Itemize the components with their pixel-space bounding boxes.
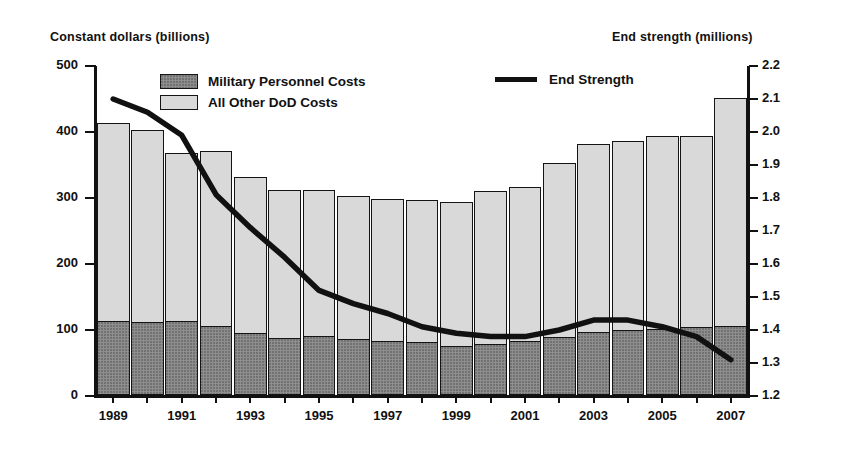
right-tick-label: 1.8 bbox=[762, 189, 780, 204]
right-tick-mark bbox=[749, 98, 758, 100]
x-tick-mark bbox=[146, 397, 148, 403]
left-tick-mark bbox=[85, 329, 94, 331]
x-tick-label: 2005 bbox=[648, 408, 677, 423]
right-tick-mark bbox=[749, 197, 758, 199]
x-tick-mark bbox=[524, 397, 526, 403]
end-strength-line bbox=[96, 66, 748, 397]
x-tick-mark bbox=[249, 397, 251, 403]
x-tick-label: 1991 bbox=[167, 408, 196, 423]
right-tick-label: 1.5 bbox=[762, 288, 780, 303]
x-tick-mark bbox=[558, 397, 560, 403]
legend-item-end-strength: End Strength bbox=[495, 72, 634, 87]
x-tick-mark bbox=[352, 397, 354, 403]
right-tick-label: 2.0 bbox=[762, 123, 780, 138]
x-tick-label: 1989 bbox=[99, 408, 128, 423]
right-tick-mark bbox=[749, 329, 758, 331]
x-tick-mark bbox=[730, 397, 732, 403]
left-tick-label: 300 bbox=[30, 189, 78, 204]
right-axis-title: End strength (millions) bbox=[612, 30, 753, 44]
right-tick-label: 2.1 bbox=[762, 90, 780, 105]
right-tick-label: 1.3 bbox=[762, 354, 780, 369]
left-tick-mark bbox=[85, 131, 94, 133]
x-tick-mark bbox=[284, 397, 286, 403]
legend-item-military: Military Personnel Costs bbox=[160, 72, 366, 91]
right-tick-mark bbox=[749, 131, 758, 133]
x-tick-mark bbox=[593, 397, 595, 403]
legend: Military Personnel Costs All Other DoD C… bbox=[160, 72, 366, 114]
right-tick-mark bbox=[749, 263, 758, 265]
left-tick-mark bbox=[85, 263, 94, 265]
x-tick-mark bbox=[181, 397, 183, 403]
left-tick-label: 400 bbox=[30, 123, 78, 138]
x-tick-mark bbox=[387, 397, 389, 403]
right-tick-mark bbox=[749, 362, 758, 364]
x-tick-mark bbox=[455, 397, 457, 403]
x-tick-mark bbox=[318, 397, 320, 403]
right-tick-mark bbox=[749, 230, 758, 232]
plot-area: 0100200300400500 1.21.31.41.51.61.71.81.… bbox=[96, 66, 748, 396]
x-tick-mark bbox=[421, 397, 423, 403]
chart-container: Constant dollars (billions) End strength… bbox=[0, 0, 849, 475]
right-tick-mark bbox=[749, 164, 758, 166]
x-tick-mark bbox=[215, 397, 217, 403]
right-tick-mark bbox=[749, 395, 758, 397]
x-tick-label: 1999 bbox=[442, 408, 471, 423]
legend-swatch-military-icon bbox=[160, 74, 198, 89]
left-tick-mark bbox=[85, 395, 94, 397]
left-tick-mark bbox=[85, 197, 94, 199]
right-tick-label: 2.2 bbox=[762, 57, 780, 72]
legend-item-other: All Other DoD Costs bbox=[160, 93, 366, 112]
x-tick-label: 1995 bbox=[305, 408, 334, 423]
x-tick-label: 2007 bbox=[716, 408, 745, 423]
left-tick-label: 0 bbox=[30, 387, 78, 402]
right-tick-mark bbox=[749, 65, 758, 67]
x-tick-label: 1993 bbox=[236, 408, 265, 423]
x-tick-mark bbox=[627, 397, 629, 403]
legend-line-marker-icon bbox=[495, 77, 537, 82]
x-tick-label: 1997 bbox=[373, 408, 402, 423]
right-tick-label: 1.6 bbox=[762, 255, 780, 270]
right-tick-label: 1.9 bbox=[762, 156, 780, 171]
legend-label-military: Military Personnel Costs bbox=[208, 74, 366, 89]
left-tick-label: 200 bbox=[30, 255, 78, 270]
right-tick-mark bbox=[749, 296, 758, 298]
right-tick-label: 1.2 bbox=[762, 387, 780, 402]
right-tick-label: 1.4 bbox=[762, 321, 780, 336]
left-tick-mark bbox=[85, 65, 94, 67]
right-tick-label: 1.7 bbox=[762, 222, 780, 237]
x-tick-label: 2001 bbox=[510, 408, 539, 423]
x-tick-label: 2003 bbox=[579, 408, 608, 423]
legend-label-end-strength: End Strength bbox=[549, 72, 634, 87]
left-tick-label: 500 bbox=[30, 57, 78, 72]
left-tick-label: 100 bbox=[30, 321, 78, 336]
x-tick-mark bbox=[490, 397, 492, 403]
legend-swatch-other-icon bbox=[160, 95, 198, 110]
x-tick-mark bbox=[661, 397, 663, 403]
x-tick-mark bbox=[112, 397, 114, 403]
legend-label-other: All Other DoD Costs bbox=[208, 95, 338, 110]
left-axis-title: Constant dollars (billions) bbox=[50, 30, 210, 44]
x-tick-mark bbox=[696, 397, 698, 403]
end-strength-polyline bbox=[113, 99, 731, 360]
